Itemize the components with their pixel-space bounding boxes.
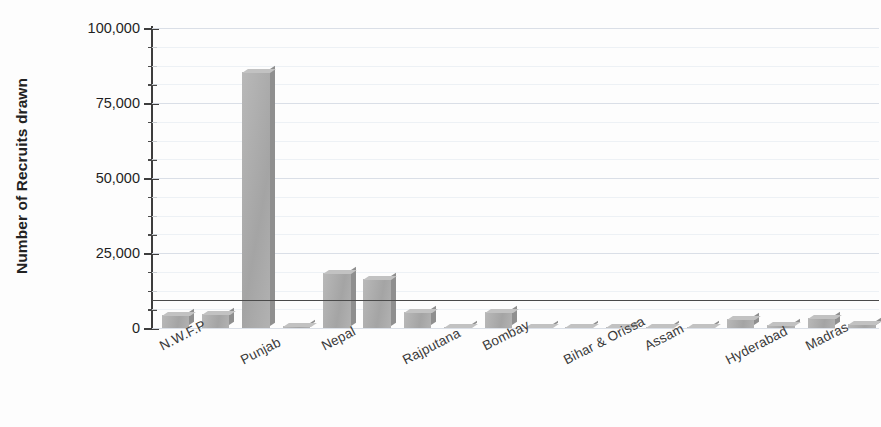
y-axis-tick-label: 100,000	[48, 20, 140, 36]
bar-front-face	[363, 279, 391, 329]
x-axis-category-label: Nepal	[319, 324, 358, 354]
y-axis-tick-label: 25,000	[48, 245, 140, 261]
bar-side-face	[351, 266, 356, 325]
bar-side-face	[391, 272, 396, 325]
bar-top-face	[363, 276, 396, 280]
bar-top-face	[444, 324, 477, 328]
bar	[242, 72, 270, 329]
bar	[727, 319, 755, 328]
x-axis-category-labels: N.W.F.PPunjabNepalRajputanaBombayBihar &…	[0, 328, 881, 427]
bar-top-face	[202, 311, 235, 315]
gridline-minor	[152, 66, 879, 67]
bar-top-face	[283, 323, 316, 327]
bar-top-face	[323, 270, 356, 274]
y-axis-tick-label: 50,000	[48, 170, 140, 186]
plot-area	[152, 28, 879, 328]
x-axis-category-label: Hyderabad	[723, 323, 790, 367]
x-axis-category-label: Punjab	[238, 335, 283, 368]
gridline-minor	[152, 47, 879, 48]
bar-top-face	[687, 324, 720, 328]
bar-front-face	[404, 312, 432, 328]
gridline-major	[152, 28, 879, 29]
y-axis-title: Number of Recruits drawn	[0, 0, 44, 352]
bar-front-face	[242, 72, 270, 329]
y-axis-tick-label: 75,000	[48, 95, 140, 111]
bar-top-face	[565, 324, 598, 328]
x-axis-category-label: Rajputana	[400, 325, 463, 367]
bar-top-face	[808, 315, 841, 319]
bar	[404, 312, 432, 328]
bar-top-face	[485, 309, 518, 313]
bar-top-face	[727, 316, 760, 320]
y-axis-title-text: Number of Recruits drawn	[13, 78, 31, 274]
chart-canvas: Number of Recruits drawn 025,00050,00075…	[0, 0, 881, 427]
bar	[363, 279, 391, 329]
bar-side-face	[270, 65, 275, 325]
x-axis-line	[152, 300, 879, 301]
bar-top-face	[848, 321, 881, 325]
bar-front-face	[727, 319, 755, 328]
bar-top-face	[242, 69, 275, 73]
